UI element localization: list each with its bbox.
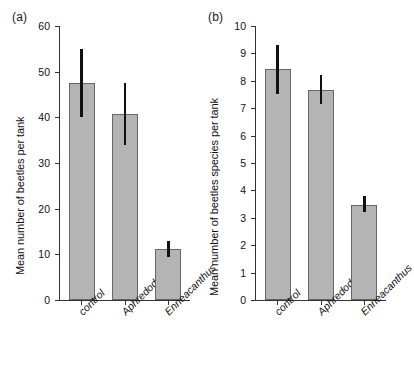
- y-axis-tick-label: 9: [240, 47, 246, 59]
- y-axis-tick-label: 50: [38, 66, 50, 78]
- y-axis-tick-label: 10: [38, 248, 50, 260]
- y-axis-tick-label: 10: [234, 20, 246, 32]
- y-axis-tick: [55, 254, 59, 255]
- panel-a: (a) Mean number of beetles per tank 0102…: [0, 0, 196, 379]
- error-bar-enneacanthus: [363, 196, 365, 212]
- panel-b: (b) Mean number of beetles species per t…: [196, 0, 392, 379]
- panel-b-plot-area: 012345678910controlAphredoderusEnneacant…: [256, 26, 386, 300]
- y-axis-tick-label: 7: [240, 102, 246, 114]
- panel-b-label: (b): [208, 10, 223, 24]
- y-axis-tick: [55, 72, 59, 73]
- y-axis-tick-label: 0: [44, 294, 50, 306]
- y-axis-tick: [251, 190, 255, 191]
- y-axis-tick: [55, 209, 59, 210]
- y-axis-tick: [55, 117, 59, 118]
- y-axis-tick-label: 4: [240, 184, 246, 196]
- bar-enneacanthus: [351, 205, 377, 300]
- bar-aphredoderus: [308, 90, 334, 300]
- y-axis-tick: [55, 300, 59, 301]
- panel-b-y-axis-title: Mean number of beetles species per tank: [208, 98, 220, 296]
- y-axis-tick-label: 30: [38, 157, 50, 169]
- panel-a-label: (a): [12, 10, 27, 24]
- y-axis-tick: [251, 81, 255, 82]
- error-bar-aphredoderus: [320, 75, 322, 104]
- y-axis-tick-label: 6: [240, 130, 246, 142]
- y-axis-tick: [251, 300, 255, 301]
- error-bar-enneacanthus: [167, 241, 169, 257]
- y-axis-tick-label: 2: [240, 239, 246, 251]
- y-axis-tick: [251, 273, 255, 274]
- y-axis-tick: [55, 163, 59, 164]
- y-axis-tick: [251, 245, 255, 246]
- y-axis-tick: [251, 26, 255, 27]
- panel-a-plot-area: 0102030405060controlAphredoderusEnneacan…: [60, 26, 190, 300]
- y-axis-tick-label: 20: [38, 203, 50, 215]
- y-axis-tick: [251, 108, 255, 109]
- y-axis-tick-label: 5: [240, 157, 246, 169]
- error-bar-aphredoderus: [124, 83, 126, 145]
- y-axis-tick: [251, 53, 255, 54]
- panel-a-y-axis-title: Mean number of beetles per tank: [14, 117, 26, 275]
- y-axis-tick-label: 40: [38, 111, 50, 123]
- y-axis-tick-label: 8: [240, 75, 246, 87]
- error-bar-control: [276, 45, 278, 94]
- error-bar-control: [80, 49, 82, 118]
- y-axis-tick-label: 1: [240, 267, 246, 279]
- y-axis-line: [59, 26, 60, 300]
- y-axis-tick: [251, 136, 255, 137]
- bar-control: [265, 69, 291, 300]
- y-axis-tick: [251, 218, 255, 219]
- y-axis-tick-label: 0: [240, 294, 246, 306]
- y-axis-tick: [55, 26, 59, 27]
- y-axis-line: [255, 26, 256, 300]
- y-axis-tick-label: 60: [38, 20, 50, 32]
- y-axis-tick-label: 3: [240, 212, 246, 224]
- y-axis-tick: [251, 163, 255, 164]
